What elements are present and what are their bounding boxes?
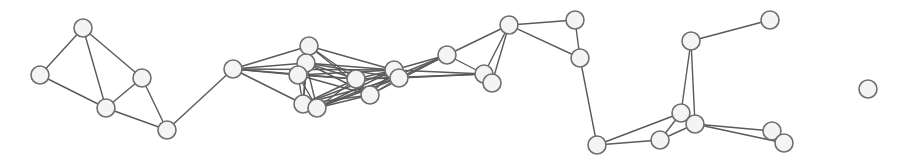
network-graph	[0, 0, 905, 168]
graph-node[interactable]	[300, 37, 318, 55]
edges-layer	[40, 20, 784, 145]
graph-node[interactable]	[500, 16, 518, 34]
graph-node[interactable]	[133, 69, 151, 87]
graph-edge	[691, 20, 770, 41]
graph-node[interactable]	[390, 69, 408, 87]
graph-edge	[40, 75, 106, 108]
graph-node[interactable]	[483, 74, 501, 92]
graph-edge	[83, 28, 142, 78]
graph-edge	[447, 25, 509, 55]
nodes-layer	[31, 11, 877, 154]
graph-edge	[691, 41, 695, 124]
graph-node[interactable]	[289, 66, 307, 84]
graph-node[interactable]	[761, 11, 779, 29]
graph-node[interactable]	[361, 86, 379, 104]
graph-edge	[167, 69, 233, 130]
graph-node[interactable]	[651, 131, 669, 149]
graph-node[interactable]	[682, 32, 700, 50]
graph-node[interactable]	[686, 115, 704, 133]
graph-node[interactable]	[859, 80, 877, 98]
graph-edge	[695, 124, 772, 131]
graph-edge	[681, 41, 691, 113]
graph-node[interactable]	[74, 19, 92, 37]
graph-edge	[509, 25, 580, 58]
graph-node[interactable]	[31, 66, 49, 84]
graph-node[interactable]	[158, 121, 176, 139]
graph-edge	[509, 20, 575, 25]
graph-node[interactable]	[308, 99, 326, 117]
graph-node[interactable]	[347, 70, 365, 88]
graph-edge	[399, 74, 484, 78]
graph-node[interactable]	[588, 136, 606, 154]
graph-node[interactable]	[438, 46, 456, 64]
graph-edge	[83, 28, 106, 108]
graph-edge	[580, 58, 597, 145]
graph-node[interactable]	[566, 11, 584, 29]
graph-node[interactable]	[224, 60, 242, 78]
graph-node[interactable]	[571, 49, 589, 67]
graph-node[interactable]	[97, 99, 115, 117]
graph-node[interactable]	[775, 134, 793, 152]
